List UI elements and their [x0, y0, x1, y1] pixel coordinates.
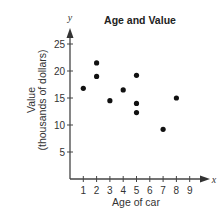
chart-title: Age and Value: [104, 14, 176, 26]
y-tick-label: 25: [54, 39, 66, 50]
x-tick-label: 6: [147, 185, 153, 196]
data-point: [134, 73, 139, 78]
data-point: [134, 101, 139, 106]
x-axis-label: Age of car: [112, 196, 160, 208]
x-tick-label: 1: [81, 185, 87, 196]
data-point: [107, 98, 112, 103]
y-axis-arrow-icon: [67, 28, 74, 38]
y-tick-label: 5: [59, 147, 65, 158]
y-tick-label: 20: [54, 66, 66, 77]
x-tick-label: 4: [120, 185, 126, 196]
x-axis-arrow-icon: [200, 176, 210, 183]
y-tick-label: 15: [54, 93, 66, 104]
x-tick-label: 3: [107, 185, 113, 196]
x-tick-label: 2: [94, 185, 100, 196]
y-tick-label: 10: [54, 120, 66, 131]
y-axis-variable: y: [67, 12, 73, 23]
y-axis-label-units: (thousands of dollars): [36, 50, 48, 151]
data-points: [81, 60, 179, 132]
ticks: 123456789510152025: [54, 39, 193, 197]
data-point: [94, 74, 99, 79]
x-tick-label: 5: [134, 185, 140, 196]
x-tick-label: 7: [160, 185, 166, 196]
x-tick-label: 9: [187, 185, 193, 196]
x-axis-variable: x: [211, 174, 217, 185]
data-point: [134, 110, 139, 115]
data-point: [94, 60, 99, 65]
data-point: [174, 95, 179, 100]
y-axis-title: Value (thousands of dollars): [25, 50, 48, 151]
data-point: [81, 86, 86, 91]
x-tick-label: 8: [174, 185, 180, 196]
data-point: [161, 127, 166, 132]
scatter-chart: Age and Value y x Value (thousands of do…: [0, 0, 222, 212]
data-point: [121, 87, 126, 92]
